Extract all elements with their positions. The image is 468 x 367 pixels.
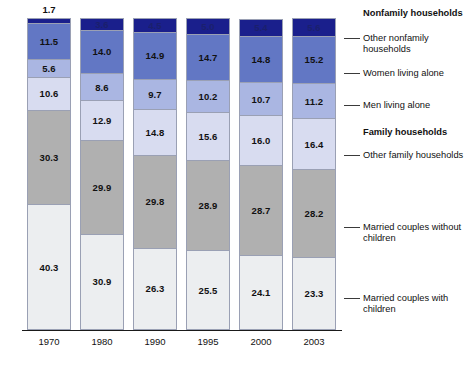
segment-2003-women-living-alone: 15.2	[292, 36, 336, 83]
bar-2003: 5.615.211.216.428.223.3	[292, 18, 336, 330]
segment-1980-married-couples-with-children: 30.9	[80, 234, 124, 330]
segment-1995-other-nonfamily-households: 5.0	[186, 18, 230, 34]
legend-label-nonfamily-households: Nonfamily households	[363, 8, 468, 19]
segment-1980-other-nonfamily-households: 3.6	[80, 18, 124, 29]
segment-value: 29.8	[146, 196, 165, 207]
segment-1970-women-living-alone: 11.5	[27, 23, 71, 59]
segment-1990-men-living-alone: 9.7	[133, 79, 177, 109]
segment-value: 24.1	[252, 287, 271, 298]
segment-value: 15.2	[305, 54, 324, 65]
bar-1990: 4.514.99.714.829.826.3	[133, 18, 177, 330]
segment-1980-other-family-households: 12.9	[80, 100, 124, 140]
segment-value: 14.9	[146, 50, 165, 61]
segment-1995-men-living-alone: 10.2	[186, 80, 230, 112]
segment-value: 28.2	[305, 208, 324, 219]
legend-label-men-living-alone: Men living alone	[363, 100, 468, 111]
segment-value: 29.9	[93, 182, 112, 193]
x-tick-1990: 1990	[133, 336, 177, 347]
leader-line-1	[344, 73, 360, 74]
segment-1995-women-living-alone: 14.7	[186, 34, 230, 80]
segment-2000-other-nonfamily-households: 5.4	[239, 19, 283, 36]
legend-label-other-family-households: Other family households	[363, 150, 468, 161]
segment-value: 11.5	[40, 36, 58, 47]
segment-value: 11.2	[305, 96, 323, 107]
segment-value: 12.9	[93, 115, 112, 126]
segment-value: 14.7	[199, 52, 218, 63]
segment-value: 26.3	[146, 283, 165, 294]
segment-value: 28.9	[199, 200, 218, 211]
segment-1970-married-couples-without-children: 30.3	[27, 110, 71, 205]
legend-label-other-nonfamily-households: Other nonfamily households	[363, 33, 468, 55]
segment-value: 23.3	[305, 288, 324, 299]
segment-1995-other-family-households: 15.6	[186, 112, 230, 161]
segment-2000-other-family-households: 16.0	[239, 115, 283, 165]
segment-2000-married-couples-without-children: 28.7	[239, 165, 283, 255]
segment-value: 10.2	[199, 91, 218, 102]
segment-value: 10.7	[252, 94, 271, 105]
x-tick-1970: 1970	[27, 336, 71, 347]
x-axis-line	[22, 330, 342, 331]
segment-value: 30.3	[40, 152, 59, 163]
legend-label-married-couples-without-children: Married couples without children	[363, 222, 468, 244]
segment-1990-married-couples-with-children: 26.3	[133, 248, 177, 330]
plot-area: 11.55.610.630.340.33.614.08.612.929.930.…	[22, 18, 340, 330]
segment-2003-married-couples-with-children: 23.3	[292, 257, 336, 330]
segment-1980-men-living-alone: 8.6	[80, 73, 124, 100]
segment-1980-women-living-alone: 14.0	[80, 30, 124, 74]
segment-value: 30.9	[93, 276, 112, 287]
segment-2003-other-nonfamily-households: 5.6	[292, 18, 336, 35]
segment-2000-women-living-alone: 14.8	[239, 36, 283, 82]
segment-1990-women-living-alone: 14.9	[133, 32, 177, 78]
segment-1990-other-nonfamily-households: 4.5	[133, 18, 177, 32]
segment-value: 5.6	[42, 63, 56, 74]
segment-2003-other-family-households: 16.4	[292, 118, 336, 169]
segment-value: 5.0	[201, 21, 215, 32]
leader-line-5	[344, 298, 360, 299]
segment-value: 40.3	[40, 262, 59, 273]
segment-value: 10.6	[40, 88, 59, 99]
segment-value: 5.4	[254, 22, 268, 33]
segment-1995-married-couples-with-children: 25.5	[186, 250, 230, 330]
x-tick-1995: 1995	[186, 336, 230, 347]
segment-value: 25.5	[199, 285, 218, 296]
segment-1970-other-family-households: 10.6	[27, 77, 71, 110]
bar-2000: 5.414.810.716.028.724.1	[239, 19, 283, 330]
segment-1980-married-couples-without-children: 29.9	[80, 140, 124, 233]
segment-value: 14.8	[146, 127, 165, 138]
leader-line-2	[344, 105, 360, 106]
segment-value: 14.0	[93, 46, 112, 57]
x-tick-2000: 2000	[239, 336, 283, 347]
legend-label-women-living-alone: Women living alone	[363, 68, 468, 79]
x-tick-2003: 2003	[292, 336, 336, 347]
legend-label-married-couples-with-children: Married couples with children	[363, 293, 468, 315]
segment-value: 14.8	[252, 54, 271, 65]
segment-value-outside: 1.7	[27, 4, 71, 15]
bar-1980: 3.614.08.612.929.930.9	[80, 18, 124, 330]
bar-1995: 5.014.710.215.628.925.5	[186, 18, 230, 330]
x-tick-1980: 1980	[80, 336, 124, 347]
segment-value: 4.5	[148, 20, 162, 31]
segment-2000-men-living-alone: 10.7	[239, 82, 283, 115]
segment-value: 3.6	[95, 19, 109, 30]
legend-label-family-households: Family households	[363, 127, 468, 138]
segment-value: 16.0	[252, 135, 271, 146]
segment-value: 8.6	[95, 82, 109, 93]
leader-line-4	[344, 227, 360, 228]
segment-1995-married-couples-without-children: 28.9	[186, 160, 230, 250]
segment-1990-other-family-households: 14.8	[133, 109, 177, 155]
segment-2000-married-couples-with-children: 24.1	[239, 255, 283, 330]
segment-value: 5.6	[307, 22, 321, 33]
segment-2003-married-couples-without-children: 28.2	[292, 169, 336, 257]
segment-1990-married-couples-without-children: 29.8	[133, 155, 177, 248]
segment-1970-men-living-alone: 5.6	[27, 59, 71, 76]
segment-2003-men-living-alone: 11.2	[292, 83, 336, 118]
segment-value: 16.4	[305, 139, 324, 150]
segment-value: 28.7	[252, 205, 271, 216]
segment-value: 15.6	[199, 131, 218, 142]
segment-1970-married-couples-with-children: 40.3	[27, 204, 71, 330]
leader-line-3	[344, 155, 360, 156]
segment-value: 9.7	[148, 89, 162, 100]
leader-line-0	[344, 38, 360, 39]
bar-1970: 11.55.610.630.340.3	[27, 18, 71, 330]
